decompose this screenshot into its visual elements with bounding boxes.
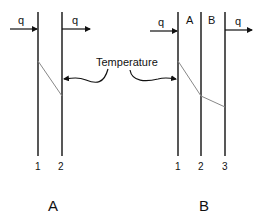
temperature-profile-a — [38, 61, 62, 96]
wall-number-b-1: 1 — [175, 161, 181, 172]
wall-number-a-2: 2 — [58, 161, 64, 172]
layer-label-a: A — [186, 14, 194, 26]
panel-a: q q 1 2 A — [10, 12, 90, 214]
wall-number-b-2: 2 — [198, 161, 204, 172]
panel-b: A B q q 1 2 3 B — [150, 12, 252, 214]
wall-number-b-3: 3 — [222, 161, 228, 172]
wall-number-a-1: 1 — [35, 161, 41, 172]
temperature-label: Temperature — [96, 56, 158, 68]
heat-conduction-diagram: q q 1 2 A Temperature A B q q 1 2 3 B — [0, 0, 258, 219]
panel-caption-a: A — [48, 197, 58, 214]
heat-in-label-b: q — [158, 16, 164, 28]
temperature-annotation: Temperature — [64, 56, 176, 82]
layer-label-b: B — [208, 14, 215, 26]
annotation-curve-left — [64, 69, 108, 82]
annotation-curve-right — [130, 70, 176, 81]
panel-caption-b: B — [199, 197, 209, 214]
heat-out-label-b: q — [235, 15, 241, 27]
heat-in-label-a: q — [18, 14, 24, 26]
heat-out-label-a: q — [72, 14, 78, 26]
